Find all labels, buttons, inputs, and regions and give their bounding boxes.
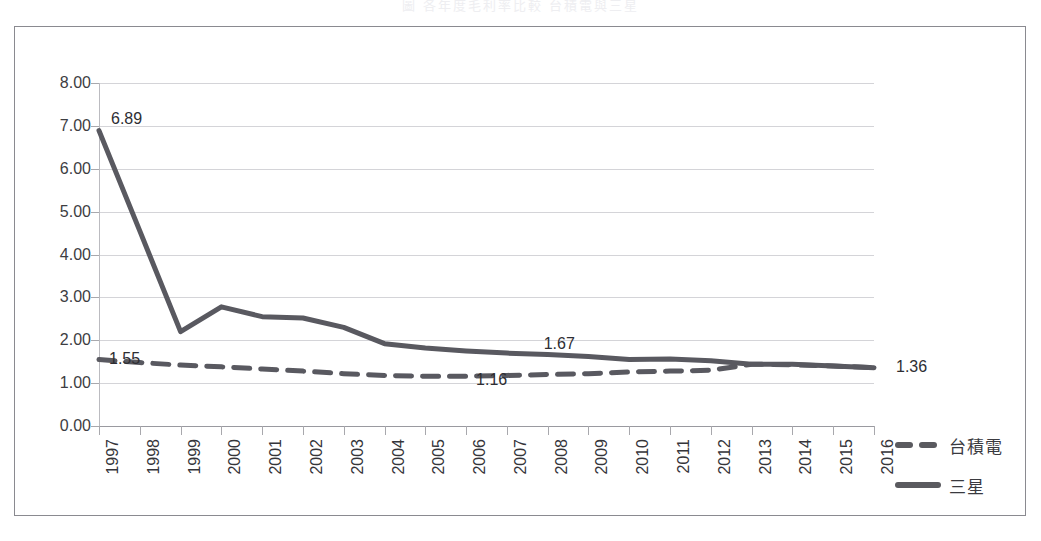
data-point-labels: 6.891.551.161.671.36: [15, 27, 1025, 515]
legend-label: 三星: [949, 473, 985, 498]
legend-swatch-icon: [895, 442, 941, 448]
data-label: 1.16: [476, 372, 507, 388]
legend-item-三星[interactable]: 三星: [895, 465, 1019, 505]
figure-frame: 0.001.002.003.004.005.006.007.008.00 199…: [14, 26, 1026, 516]
data-label: 1.36: [896, 359, 927, 375]
chart-legend: 台積電三星: [895, 425, 1019, 505]
data-label: 6.89: [111, 111, 142, 127]
legend-swatch-icon: [895, 482, 941, 488]
legend-item-台積電[interactable]: 台積電: [895, 425, 1019, 465]
line-chart: 0.001.002.003.004.005.006.007.008.00 199…: [15, 27, 1025, 515]
data-label: 1.55: [109, 351, 140, 367]
data-label: 1.67: [544, 336, 575, 352]
legend-label: 台積電: [949, 433, 1003, 458]
figure-caption: 圖 各年度毛利率比較 台積電與三星: [0, 0, 1041, 12]
